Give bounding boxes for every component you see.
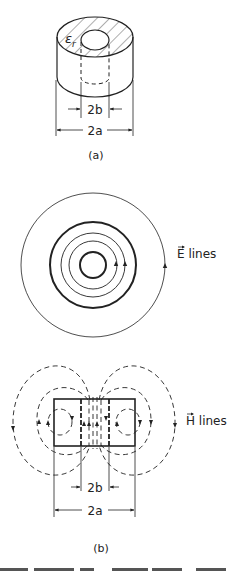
outer-diameter-label: 2a <box>88 124 103 138</box>
e-field-circle <box>69 241 117 289</box>
h-field-arrow-icon <box>95 421 99 426</box>
e-field-diagram: E lines <box>21 193 216 337</box>
outer-e-field-circle <box>21 193 165 337</box>
cylinder-bottom-arc <box>57 77 133 97</box>
svg-text:E lines: E lines <box>177 247 216 261</box>
h-field-arrow-icon <box>46 420 50 425</box>
figure-a-cylinder: εr 2b 2a (a) <box>56 17 133 162</box>
resonator-outer-edge <box>50 222 136 308</box>
h-field-arrow-icon <box>37 419 41 424</box>
resonator-inner-edge <box>80 252 106 278</box>
h-lines-label: H lines <box>186 413 227 429</box>
e-field-arrow-icon <box>163 263 167 268</box>
outer-diameter-label: 2a <box>88 504 103 518</box>
svg-text:H lines: H lines <box>186 414 227 428</box>
figure-b-h-field: H lines 2b 2a (b) <box>11 366 227 555</box>
h-field-loop-outer-right <box>99 366 175 475</box>
inner-diameter-label: 2b <box>87 481 102 495</box>
h-field-arrow-icon <box>115 421 119 426</box>
e-field-arrow-icon <box>123 261 127 266</box>
inner-hole-ellipse <box>81 30 109 50</box>
resonator-cross-section <box>54 399 135 446</box>
e-field-arrow-icon <box>114 261 118 266</box>
h-field-arrow-icon <box>104 416 108 421</box>
h-field-arrow-icon <box>70 416 74 421</box>
inner-diameter-label: 2b <box>87 103 102 117</box>
h-field-loop-outer-left <box>13 366 90 475</box>
h-field-arrow-icon <box>87 421 91 426</box>
h-field-arrow-icon <box>173 423 177 428</box>
e-lines-label: E lines <box>177 246 216 262</box>
figure-b-caption: (b) <box>93 542 109 555</box>
h-field-arrow-icon <box>11 426 15 431</box>
figure-a-caption: (a) <box>88 149 103 162</box>
h-field-arrow-icon <box>149 420 153 425</box>
h-field-arrow-icon <box>82 421 86 426</box>
h-field-arrow-icon <box>138 420 142 425</box>
h-field-loop-inner-left <box>48 409 72 435</box>
diagram-canvas: εr 2b 2a (a) E lines <box>0 0 234 571</box>
h-field-loop-inner-right <box>116 409 140 435</box>
